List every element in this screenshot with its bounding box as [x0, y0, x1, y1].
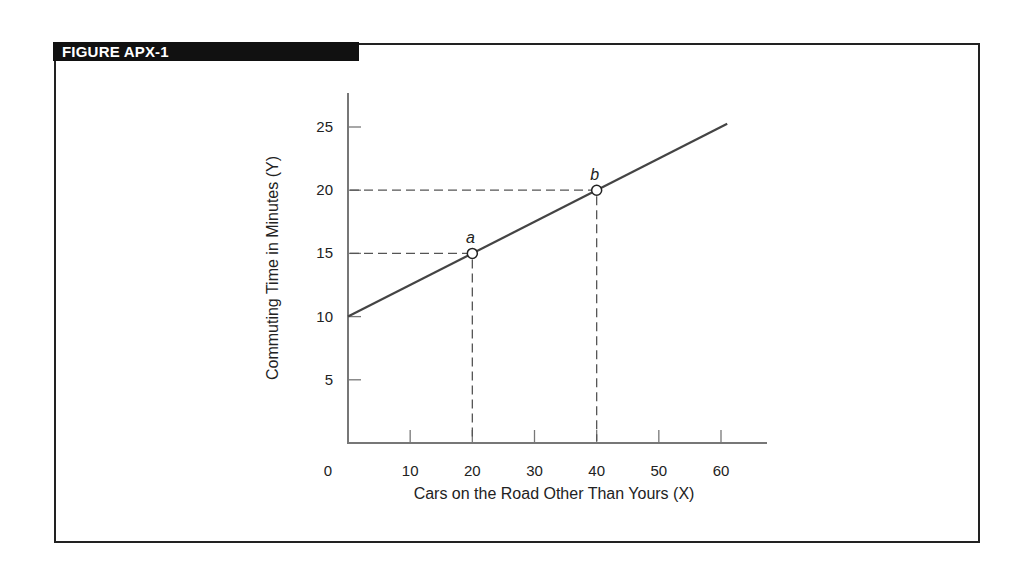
axes: 102030405060510152025: [316, 93, 767, 479]
x-tick-label: 60: [713, 462, 730, 479]
x-tick-label: 40: [588, 462, 605, 479]
point-label-a: a: [466, 229, 475, 246]
point-a: [467, 248, 477, 258]
series-line: [348, 124, 727, 317]
point-label-b: b: [590, 166, 599, 183]
x-tick-label: 20: [464, 462, 481, 479]
data-points: ab: [466, 166, 602, 258]
y-tick-label: 20: [316, 181, 333, 198]
x-tick-label: 10: [402, 462, 419, 479]
dashed-guides: [350, 190, 597, 441]
origin-label: 0: [324, 462, 332, 479]
y-tick-label: 15: [316, 244, 333, 261]
x-tick-label: 30: [526, 462, 543, 479]
y-tick-label: 5: [325, 371, 333, 388]
x-tick-label: 50: [650, 462, 667, 479]
x-axis-title: Cars on the Road Other Than Yours (X): [414, 485, 695, 502]
point-b: [592, 185, 602, 195]
y-tick-label: 25: [316, 118, 333, 135]
data-series: [348, 124, 727, 317]
y-tick-label: 10: [316, 308, 333, 325]
y-axis-title: Commuting Time in Minutes (Y): [264, 156, 281, 380]
line-chart: 102030405060510152025 ab Cars on the Roa…: [0, 0, 1028, 569]
